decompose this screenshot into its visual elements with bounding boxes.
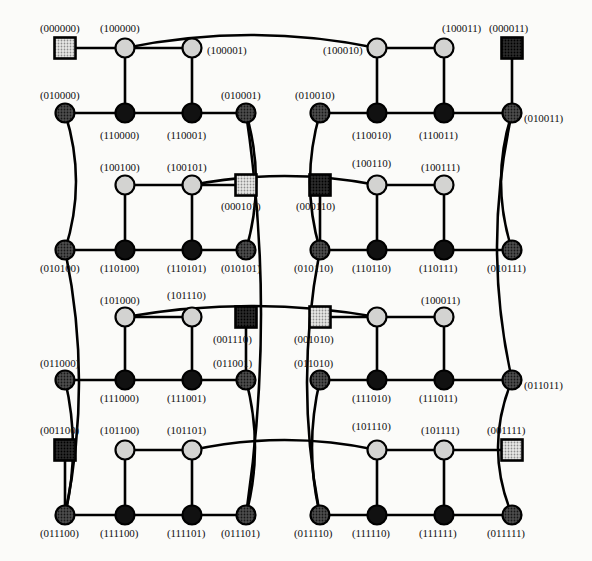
graph-node[interactable] xyxy=(368,371,387,390)
graph-edge xyxy=(192,440,377,450)
graph-node[interactable] xyxy=(435,441,454,460)
node-label: (111000) xyxy=(100,392,139,404)
graph-node[interactable] xyxy=(368,39,387,58)
graph-node[interactable] xyxy=(368,506,387,525)
node-label: (100011) xyxy=(442,22,481,34)
node-label: (011001) xyxy=(213,357,252,369)
node-label: (001010) xyxy=(294,333,334,345)
graph-node[interactable] xyxy=(183,39,202,58)
node-label: (100000) xyxy=(100,22,140,34)
graph-node[interactable] xyxy=(435,308,454,327)
graph-node[interactable] xyxy=(502,440,523,461)
graph-node[interactable] xyxy=(435,241,454,260)
graph-node[interactable] xyxy=(368,104,387,123)
node-label: (011110) xyxy=(294,527,332,539)
node-label: (000110) xyxy=(296,200,335,212)
graph-node[interactable] xyxy=(435,104,454,123)
node-label: (010100) xyxy=(40,262,80,274)
graph-node[interactable] xyxy=(311,371,330,390)
node-label: (101110) xyxy=(167,289,206,301)
node-label: (011100) xyxy=(40,527,79,539)
graph-edge xyxy=(192,176,377,185)
node-label: (111111) xyxy=(419,527,457,539)
node-label: (100001) xyxy=(207,44,247,56)
graph-node[interactable] xyxy=(435,39,454,58)
graph-node[interactable] xyxy=(116,241,135,260)
graph-node[interactable] xyxy=(368,176,387,195)
node-label: (100011) xyxy=(421,294,460,306)
graph-node[interactable] xyxy=(435,176,454,195)
graph-node[interactable] xyxy=(236,307,257,328)
graph-node[interactable] xyxy=(116,371,135,390)
graph-node[interactable] xyxy=(237,506,256,525)
graph-node[interactable] xyxy=(116,176,135,195)
node-label: (010111) xyxy=(487,262,526,274)
node-label: (000000) xyxy=(40,22,80,34)
graph-node[interactable] xyxy=(116,104,135,123)
node-label: (111010) xyxy=(352,392,391,404)
node-label: (001110) xyxy=(213,333,252,345)
node-label: (111011) xyxy=(419,392,457,404)
graph-node[interactable] xyxy=(502,38,523,59)
graph-node[interactable] xyxy=(368,241,387,260)
graph-node[interactable] xyxy=(55,440,76,461)
node-label: (011111) xyxy=(487,527,525,539)
graph-edge xyxy=(312,380,320,515)
graph-node[interactable] xyxy=(368,308,387,327)
node-label: (010110) xyxy=(294,262,333,274)
graph-node[interactable] xyxy=(56,506,75,525)
graph-node[interactable] xyxy=(310,175,331,196)
graph-node[interactable] xyxy=(183,176,202,195)
node-label: (110011) xyxy=(419,129,458,141)
node-label: (101110) xyxy=(352,420,391,432)
graph-node[interactable] xyxy=(56,241,75,260)
node-label: (101101) xyxy=(167,424,206,436)
node-label: (100101) xyxy=(167,161,207,173)
graph-node[interactable] xyxy=(183,104,202,123)
graph-node[interactable] xyxy=(55,38,76,59)
graph-node[interactable] xyxy=(503,241,522,260)
graph-node[interactable] xyxy=(183,441,202,460)
node-label: (011011) xyxy=(524,379,563,391)
graph-canvas xyxy=(0,0,592,561)
node-label: (010001) xyxy=(221,89,261,101)
node-label: (010101) xyxy=(221,262,261,274)
graph-node[interactable] xyxy=(236,175,257,196)
graph-node[interactable] xyxy=(116,308,135,327)
node-label: (010011) xyxy=(524,112,563,124)
graph-node[interactable] xyxy=(311,104,330,123)
node-label: (011010) xyxy=(294,357,333,369)
node-label: (111110) xyxy=(352,527,390,539)
node-label: (011000) xyxy=(40,357,79,369)
graph-node[interactable] xyxy=(503,371,522,390)
graph-node[interactable] xyxy=(183,241,202,260)
node-label: (010010) xyxy=(295,89,335,101)
graph-node[interactable] xyxy=(311,241,330,260)
graph-node[interactable] xyxy=(183,371,202,390)
node-label: (101000) xyxy=(100,294,140,306)
graph-node[interactable] xyxy=(116,441,135,460)
graph-node[interactable] xyxy=(368,441,387,460)
graph-edge xyxy=(65,113,76,250)
node-label: (000011) xyxy=(489,22,528,34)
graph-node[interactable] xyxy=(237,241,256,260)
graph-node[interactable] xyxy=(183,506,202,525)
graph-node[interactable] xyxy=(503,104,522,123)
node-label: (101111) xyxy=(421,424,459,436)
graph-node[interactable] xyxy=(237,371,256,390)
graph-node[interactable] xyxy=(56,104,75,123)
graph-node[interactable] xyxy=(310,307,331,328)
node-label: (100111) xyxy=(421,161,460,173)
graph-node[interactable] xyxy=(435,506,454,525)
graph-node[interactable] xyxy=(116,506,135,525)
node-label: (110111) xyxy=(419,262,457,274)
graph-node[interactable] xyxy=(435,371,454,390)
graph-node[interactable] xyxy=(183,308,202,327)
graph-node[interactable] xyxy=(503,506,522,525)
graph-node[interactable] xyxy=(237,104,256,123)
graph-node[interactable] xyxy=(56,371,75,390)
node-label: (011101) xyxy=(221,527,260,539)
graph-node[interactable] xyxy=(116,39,135,58)
node-label: (111001) xyxy=(167,392,206,404)
graph-node[interactable] xyxy=(311,506,330,525)
